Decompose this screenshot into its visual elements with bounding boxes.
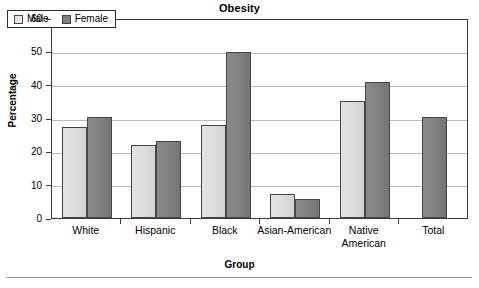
legend-label-female: Female (75, 14, 108, 24)
bar-hispanic-female (156, 141, 181, 218)
x-axis-category-line: Total (393, 224, 475, 237)
y-axis-tick (46, 185, 51, 186)
x-axis-category-line: American (323, 237, 405, 250)
bar-white-female (87, 117, 112, 218)
bar-total-female (422, 117, 447, 218)
chart-figure: Obesity Percentage Group Male Female 010… (0, 0, 479, 288)
bar-native-american-female (365, 82, 390, 218)
gridline (52, 153, 467, 154)
y-axis-tick-label: 60 (8, 14, 42, 24)
bottom-divider (6, 277, 472, 278)
bar-black-male (201, 125, 226, 218)
y-axis-tick-label: 20 (8, 147, 42, 157)
legend-swatch-female-icon (62, 15, 71, 24)
gridline (52, 86, 467, 87)
plot-area (51, 19, 468, 219)
bar-hispanic-male (131, 145, 156, 218)
gridline (52, 186, 467, 187)
y-axis-tick (46, 152, 51, 153)
y-axis-tick-label: 40 (8, 81, 42, 91)
legend-entry-female: Female (62, 14, 108, 24)
bar-asian-american-female (295, 199, 320, 218)
gridline (52, 120, 467, 121)
y-axis-tick-label: 10 (8, 181, 42, 191)
bar-black-female (226, 52, 251, 218)
bar-white-male (62, 127, 87, 218)
y-axis-tick-label: 0 (8, 214, 42, 224)
y-axis-tick (46, 85, 51, 86)
gridline (52, 53, 467, 54)
bar-asian-american-male (270, 194, 295, 218)
x-axis-category-label: Total (393, 224, 475, 237)
y-axis-tick (46, 52, 51, 53)
y-axis-tick-label: 30 (8, 114, 42, 124)
y-axis-title: Percentage (7, 56, 18, 146)
x-axis-title: Group (0, 259, 479, 270)
y-axis-tick (46, 19, 51, 20)
y-axis-tick (46, 219, 51, 220)
bar-native-american-male (340, 101, 365, 218)
y-axis-tick-label: 50 (8, 47, 42, 57)
y-axis-tick (46, 119, 51, 120)
